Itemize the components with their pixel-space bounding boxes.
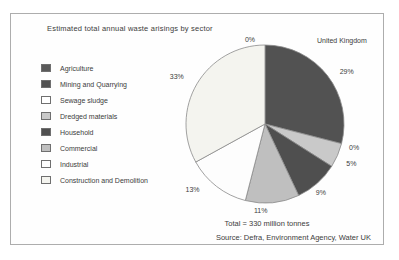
pie-slice-percent-label: 9% (316, 189, 326, 196)
pie-slice-percent-label: 33% (170, 73, 184, 80)
pie-slice-percent-label: 11% (254, 207, 268, 214)
pie-slice-percent-label: 0% (245, 36, 255, 43)
pie-slice-percent-label: 29% (340, 68, 354, 75)
pie-chart: 0%29%0%5%9%11%13%33% (0, 0, 399, 260)
pie-slice-percent-label: 5% (346, 160, 356, 167)
pie-slice-percent-label: 13% (186, 186, 200, 193)
pie-slice-percent-label: 0% (349, 144, 359, 151)
